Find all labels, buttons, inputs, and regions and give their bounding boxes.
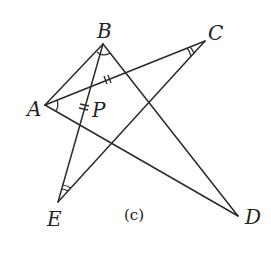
diagram-canvas: B A C P E D (c): [0, 0, 271, 265]
label-B: B: [96, 19, 112, 43]
label-D: D: [244, 205, 261, 229]
angle-mark-B: [97, 52, 110, 55]
angle-mark-C: [190, 47, 194, 53]
angle-mark-A: [56, 100, 58, 111]
caption: (c): [124, 206, 144, 224]
label-C: C: [208, 21, 223, 45]
segment-CE: [58, 41, 205, 202]
label-A: A: [25, 97, 41, 121]
tick-marks-BE: [79, 104, 89, 110]
angle-mark-E-2: [62, 185, 71, 188]
label-E: E: [46, 207, 62, 231]
label-P: P: [91, 98, 106, 122]
segment-AD: [45, 105, 238, 216]
geometry-diagram: B A C P E D (c): [0, 0, 271, 265]
angle-mark-C-2: [187, 48, 191, 56]
